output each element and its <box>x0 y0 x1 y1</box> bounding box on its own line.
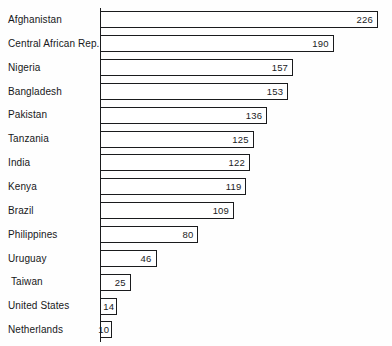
bar: 119 <box>100 178 246 195</box>
category-label: Uruguay <box>8 247 47 271</box>
bar-row: Central African Rep.190 <box>0 32 392 56</box>
category-label: United States <box>8 294 69 318</box>
bar-value-label: 226 <box>357 12 373 27</box>
y-axis-spine <box>100 8 101 342</box>
bar: 136 <box>100 107 267 124</box>
bar: 157 <box>100 59 293 76</box>
bar-value-label: 125 <box>232 132 248 147</box>
category-label: Netherlands <box>8 318 63 342</box>
bar-value-label: 122 <box>229 155 245 170</box>
bar-value-label: 190 <box>312 36 328 51</box>
bar: 153 <box>100 83 288 100</box>
bar-row: Afghanistan226 <box>0 8 392 32</box>
bar-row: Bangladesh153 <box>0 80 392 104</box>
bar-value-label: 46 <box>141 251 152 266</box>
bar: 109 <box>100 202 234 219</box>
bar: 122 <box>100 154 250 171</box>
category-label: Taiwan <box>11 270 43 294</box>
category-label: Kenya <box>8 175 37 199</box>
bar-value-label: 109 <box>213 203 229 218</box>
plot-area: Afghanistan226Central African Rep.190Nig… <box>0 0 392 346</box>
category-label: Brazil <box>8 199 34 223</box>
category-label: Tanzania <box>8 127 49 151</box>
bar: 226 <box>100 11 378 28</box>
category-label: Bangladesh <box>8 80 62 104</box>
bar-value-label: 14 <box>103 299 114 314</box>
bar-row: Netherlands10 <box>0 318 392 342</box>
bar-row: Pakistan136 <box>0 103 392 127</box>
bar-row: Brazil109 <box>0 199 392 223</box>
category-label: Nigeria <box>8 56 40 80</box>
bar-row: Philippines80 <box>0 223 392 247</box>
bar-value-label: 157 <box>272 60 288 75</box>
bar-value-label: 80 <box>182 227 193 242</box>
category-label: Pakistan <box>8 103 47 127</box>
bar-value-label: 136 <box>246 108 262 123</box>
category-label: Philippines <box>8 223 57 247</box>
bar-row: Uruguay46 <box>0 247 392 271</box>
bar-chart: Afghanistan226Central African Rep.190Nig… <box>0 0 392 346</box>
bar-row: India122 <box>0 151 392 175</box>
category-label: Central African Rep. <box>8 32 100 56</box>
bar-row: Nigeria157 <box>0 56 392 80</box>
bar-row: Tanzania125 <box>0 127 392 151</box>
bar-value-label: 119 <box>226 179 242 194</box>
bar: 25 <box>100 274 131 291</box>
bar-value-label: 153 <box>267 84 283 99</box>
bar: 14 <box>100 298 117 315</box>
bar: 80 <box>100 226 198 243</box>
bar-value-label: 25 <box>115 275 126 290</box>
bar-row: United States14 <box>0 294 392 318</box>
bar-row: Kenya119 <box>0 175 392 199</box>
category-label: India <box>8 151 30 175</box>
bar: 125 <box>100 131 254 148</box>
bar: 46 <box>100 250 157 267</box>
bar: 10 <box>100 321 112 338</box>
category-label: Afghanistan <box>8 8 62 32</box>
bar: 190 <box>100 35 334 52</box>
bar-row: Taiwan25 <box>0 270 392 294</box>
